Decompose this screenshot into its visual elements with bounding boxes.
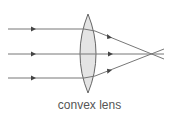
refracted-ray-bottom bbox=[95, 49, 164, 76]
arrow-icon bbox=[108, 52, 113, 57]
arrow-icon bbox=[31, 52, 36, 57]
arrow-icon bbox=[31, 27, 36, 32]
arrow-icon bbox=[31, 76, 36, 81]
arrow-icon bbox=[107, 34, 112, 39]
refracted-ray-top bbox=[95, 31, 164, 59]
diagram-label: convex lens bbox=[0, 98, 179, 112]
